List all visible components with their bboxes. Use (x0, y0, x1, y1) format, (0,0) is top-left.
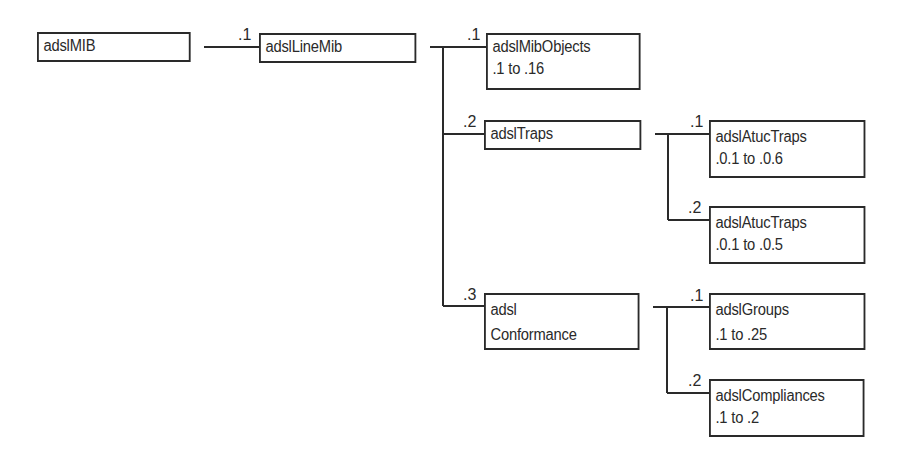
node-title: adslMIB (43, 35, 188, 57)
node-subtitle: Conformance (490, 322, 637, 347)
node-range: .1 to .25 (715, 322, 863, 347)
node-adslMIB: adslMIB (37, 32, 191, 62)
node-adslTraps: adslTraps (484, 120, 641, 150)
node-title: adsl (490, 297, 637, 322)
edge-label-adslAtucTraps2: .2 (688, 200, 701, 216)
edge-label-adslConformance: .3 (463, 287, 476, 303)
node-title: adslMibObjects (492, 36, 638, 58)
node-adslCompliances: adslCompliances .1 to .2 (709, 379, 864, 437)
node-title: adslAtucTraps (715, 212, 863, 234)
edge-label-adslLineMib: .1 (238, 27, 251, 43)
edge-label-adslMibObjects: .1 (467, 27, 480, 43)
node-adslConformance: adsl Conformance (484, 293, 639, 350)
node-range: .1 to .2 (715, 407, 862, 429)
node-range: .1 to .16 (492, 58, 638, 80)
node-range: .0.1 to .0.5 (715, 234, 863, 256)
edge-label-adslGroups: .1 (690, 288, 703, 304)
node-title: adslGroups (715, 297, 863, 322)
edge-label-adslTraps: .2 (463, 114, 476, 130)
node-title: adslCompliances (715, 385, 862, 407)
node-title: adslLineMib (265, 36, 414, 58)
node-adslGroups: adslGroups .1 to .25 (709, 293, 865, 350)
node-adslAtucTraps-2: adslAtucTraps .0.1 to .0.5 (709, 206, 865, 264)
node-adslAtucTraps-1: adslAtucTraps .0.1 to .0.6 (709, 120, 865, 178)
node-range: .0.1 to .0.6 (715, 148, 863, 170)
node-title: adslTraps (490, 123, 639, 145)
edge-label-adslCompliances: .2 (688, 373, 701, 389)
node-title: adslAtucTraps (715, 126, 863, 148)
node-adslMibObjects: adslMibObjects .1 to .16 (486, 33, 641, 90)
edge-label-adslAtucTraps1: .1 (690, 114, 703, 130)
node-adslLineMib: adslLineMib (259, 33, 416, 63)
